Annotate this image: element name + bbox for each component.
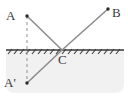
point-label-a: A xyxy=(6,9,15,22)
diagram-canvas xyxy=(0,0,128,97)
incident-ray xyxy=(27,16,62,50)
point-dot-b xyxy=(106,7,109,10)
point-label-c: C xyxy=(58,53,67,66)
point-label-b: B xyxy=(112,6,121,19)
point-label-a-prime: A' xyxy=(4,76,16,89)
reflection-ray-diagram: A B C A' xyxy=(0,0,128,97)
reflected-ray xyxy=(62,9,108,50)
point-dot-a-prime xyxy=(25,81,28,84)
point-dot-a xyxy=(25,14,28,17)
